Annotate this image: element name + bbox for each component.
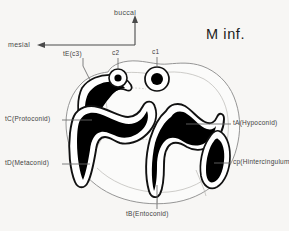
orientation-buccal-label: buccal: [114, 9, 136, 16]
orientation-indicator: [41, 19, 135, 45]
cusp-c1-enamel-core: [151, 73, 163, 85]
mesial-arrowhead: [37, 42, 45, 48]
label-cusp-c1: c1: [152, 49, 159, 56]
orientation-mesial-label: mesial: [8, 41, 30, 48]
leader-tE: [83, 58, 90, 80]
label-cusp-tE: tE(c3): [63, 51, 82, 58]
label-cusp-tA-hypoconid: tA(Hypoconid): [233, 120, 277, 127]
label-cusp-cp-hintercingulum: cp(Hintercingulum): [233, 159, 289, 166]
tooth-diagram-figure: M inf. buccal mesial tE(c3) c2 c1 tC(Pro…: [0, 0, 289, 231]
label-cusp-tC-protoconid: tC(Protoconid): [5, 116, 50, 123]
label-cusp-c2: c2: [112, 50, 119, 57]
label-cusp-tD-metaconid: tD(Metaconid): [5, 160, 49, 167]
figure-title: M inf.: [206, 26, 245, 42]
buccal-arrowhead: [132, 15, 138, 23]
label-cusp-tB-entoconid: tB(Entoconid): [126, 211, 169, 218]
cusp-c2-enamel-core: [114, 74, 121, 81]
